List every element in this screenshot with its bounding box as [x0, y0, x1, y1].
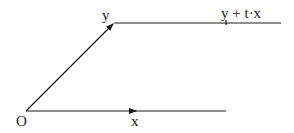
vector-diagram: O x y y + t·x	[0, 0, 294, 133]
label-y-plus-tx: y + t·x	[221, 5, 262, 21]
label-origin: O	[16, 113, 27, 129]
label-y: y	[102, 7, 110, 23]
label-x: x	[131, 113, 139, 129]
vector-y-arrow	[70, 24, 113, 67]
vector-y-line	[26, 67, 70, 111]
